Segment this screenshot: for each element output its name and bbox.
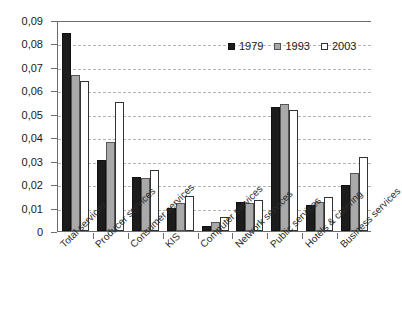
legend-item[interactable]: 2003 — [321, 41, 356, 52]
legend-item[interactable]: 1979 — [228, 41, 263, 52]
legend-swatch-icon — [228, 43, 235, 50]
y-tick-label: 0,04 — [22, 133, 43, 144]
legend-label: 1979 — [239, 41, 263, 52]
legend-label: 2003 — [332, 41, 356, 52]
y-tick-label: 0,02 — [22, 180, 43, 191]
y-tick-label: 0,03 — [22, 156, 43, 167]
bars-layer — [58, 22, 371, 231]
y-tick-label: 0,06 — [22, 86, 43, 97]
bar-group — [202, 22, 229, 231]
legend-swatch-icon — [274, 43, 281, 50]
x-category-label: KIS — [163, 231, 182, 250]
bar[interactable] — [71, 75, 80, 231]
legend-swatch-icon — [321, 43, 328, 50]
bar[interactable] — [80, 81, 89, 231]
y-tick-label: 0,05 — [22, 109, 43, 120]
bar[interactable] — [62, 33, 71, 231]
y-tick-label: 0,01 — [22, 203, 43, 214]
y-tick-label: 0,09 — [22, 16, 43, 27]
plot-area — [57, 21, 371, 232]
bar-group — [62, 22, 89, 231]
bar[interactable] — [185, 196, 194, 231]
bar[interactable] — [106, 142, 115, 231]
bar[interactable] — [280, 104, 289, 231]
y-axis: 00,010,020,030,040,050,060,070,080,09 — [0, 21, 51, 232]
y-tick-label: 0,07 — [22, 62, 43, 73]
x-axis: Total servicesProducer servicesConsumer … — [0, 232, 389, 333]
bar[interactable] — [97, 160, 106, 232]
legend-label: 1993 — [285, 41, 309, 52]
y-tick-label: 0,08 — [22, 39, 43, 50]
legend-item[interactable]: 1993 — [274, 41, 309, 52]
chart-legend: 197919932003 — [228, 41, 356, 52]
